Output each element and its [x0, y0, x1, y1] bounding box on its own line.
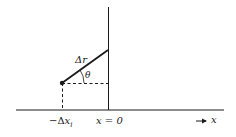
particle-point	[60, 81, 64, 85]
diagram-figure: Δr θ −Δxi x = 0 x	[0, 0, 236, 137]
theta-label: θ	[85, 70, 90, 80]
delta-r-text: Δr	[75, 54, 87, 65]
x-equals-zero-label: x = 0	[96, 116, 123, 126]
minus-delta-sub: i	[70, 121, 72, 129]
minus-delta-x-label: −Δxi	[49, 116, 73, 130]
delta-r-label: Δr	[75, 55, 87, 65]
axis-x-label: x	[211, 115, 217, 125]
minus-delta-prefix: −Δ	[49, 115, 65, 126]
theta-arc	[80, 70, 84, 83]
axis-arrow-head-icon	[202, 119, 207, 124]
